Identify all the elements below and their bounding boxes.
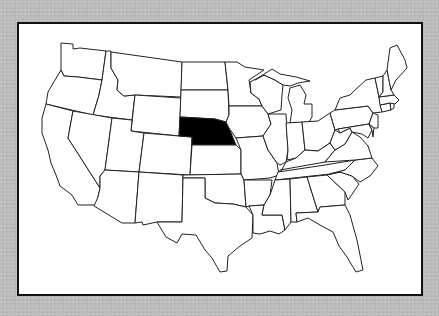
state-maine[interactable] [387,45,407,90]
state-arizona[interactable] [94,170,139,223]
state-michigan-lower[interactable] [288,85,312,123]
state-washington[interactable] [61,43,106,80]
state-new-mexico[interactable] [135,172,183,225]
us-map [0,0,439,316]
state-kansas[interactable] [190,145,241,175]
state-colorado[interactable] [139,133,192,175]
state-north-dakota[interactable] [181,62,228,90]
map-frame [17,22,423,296]
state-montana[interactable] [111,52,182,97]
state-florida[interactable] [296,205,363,272]
state-wyoming[interactable] [131,95,181,136]
state-iowa[interactable] [226,106,271,138]
